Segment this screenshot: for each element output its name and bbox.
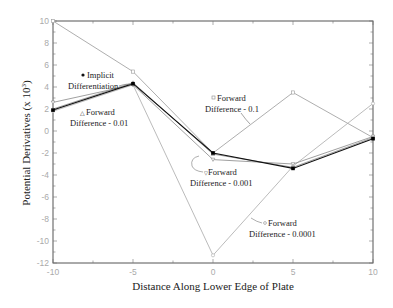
annotation-fd-001-line2: Difference - 0.01 [70,118,128,128]
y-tick-label: -4 [41,170,49,180]
annotation-fd-00001: Forward Difference - 0.0001 [249,218,316,239]
y-tick-label: -10 [37,236,50,246]
data-point [131,70,134,73]
annotation-fd-0001-line1: Forward [208,167,238,177]
annotation-fd-00001-line1: Forward [268,218,298,228]
y-tick-label: 8 [44,38,49,48]
y-tick-label: 10 [40,16,50,26]
y-axis-label-close: ) [20,80,33,84]
annotation-fd-01-line2: Difference - 0.1 [205,104,259,114]
annotation-fd-01-line1: Forward [217,93,247,103]
y-tick-label: -6 [41,192,49,202]
x-tick-label: -5 [129,267,137,277]
annotation-fd-01: Forward Difference - 0.1 [205,93,259,124]
x-axis-label: Distance Along Lower Edge of Plate [132,280,294,292]
series-group [51,19,375,257]
y-tick-label: 0 [44,126,49,136]
square-marker-icon [212,96,215,99]
annotation-implicit-line2: Differentiation [68,81,119,91]
data-point [51,108,55,112]
data-point [371,137,375,141]
annotation-fd-001: △ Forward Difference - 0.01 [70,107,128,128]
leader-line [251,218,262,223]
y-tick-label: 4 [44,82,49,92]
chart: -10-505101086420-2-4-6-8-10-12 Implicit … [0,0,393,308]
data-point [291,167,295,171]
y-tick-label: -8 [41,214,49,224]
x-tick-label: -10 [47,267,60,277]
annotation-fd-0001-line2: Difference - 0.001 [190,178,252,188]
data-point [51,19,54,22]
implicit-marker-icon [81,73,84,76]
annotation-fd-00001-line2: Difference - 0.0001 [249,229,316,239]
y-axis-label-text: Potential Derivatives (x 10 [20,87,33,206]
data-point [211,254,214,257]
data-point [51,101,55,104]
leader-line [241,113,250,124]
data-point [371,102,374,105]
x-tick-label: 5 [291,267,296,277]
y-axis-label: Potential Derivatives (x 103) [20,80,33,206]
annotation-fd-001-line1: Forward [86,107,116,117]
y-tick-label: 2 [44,104,49,114]
annotations: Implicit Differentiation △ Forward Diffe… [68,70,316,239]
annotation-implicit-line1: Implicit [87,70,115,80]
circle-marker-icon [264,222,267,225]
axes: -10-505101086420-2-4-6-8-10-12 [37,16,378,277]
y-tick-label: -2 [41,148,49,158]
data-point [131,82,135,86]
data-point [211,151,215,155]
annotation-fd-0001: ▽ Forward Difference - 0.001 [190,156,252,188]
y-tick-label: -12 [37,258,50,268]
x-tick-label: 10 [368,267,378,277]
y-tick-label: 6 [44,60,49,70]
leader-line [192,156,203,172]
data-point [291,91,294,94]
triangle-marker-icon: △ [80,110,85,116]
x-tick-label: 0 [211,267,216,277]
plot-frame [53,21,373,263]
